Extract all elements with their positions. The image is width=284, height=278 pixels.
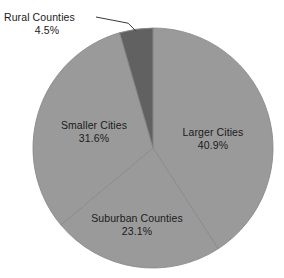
pie-label-suburban-counties-value: 23.1% — [78, 225, 196, 238]
pie-label-smaller-cities-value: 31.6% — [48, 132, 140, 145]
pie-label-suburban-counties: Suburban Counties 23.1% — [78, 212, 196, 238]
pie-label-larger-cities-name: Larger Cities — [167, 126, 259, 139]
pie-chart: Larger Cities 40.9% Suburban Counties 23… — [0, 0, 284, 278]
pie-label-suburban-counties-name: Suburban Counties — [78, 212, 196, 225]
pie-label-larger-cities: Larger Cities 40.9% — [167, 126, 259, 152]
pie-label-larger-cities-value: 40.9% — [167, 139, 259, 152]
pie-label-rural-counties-name: Rural Counties — [4, 11, 108, 24]
pie-label-smaller-cities-name: Smaller Cities — [48, 119, 140, 132]
pie-label-rural-counties: Rural Counties 4.5% — [4, 11, 108, 37]
pie-label-rural-counties-value: 4.5% — [4, 24, 108, 37]
pie-label-smaller-cities: Smaller Cities 31.6% — [48, 119, 140, 145]
